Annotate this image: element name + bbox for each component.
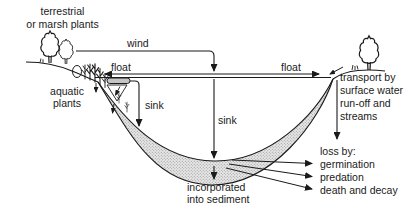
label-float-right: float <box>281 61 301 73</box>
label-incorporated: incorporated into sediment <box>187 182 249 205</box>
label-loss-predation: predation <box>320 171 364 183</box>
label-transport: transport by surface water run-off and s… <box>340 71 418 123</box>
tree-icon <box>41 31 59 63</box>
label-loss-death-decay: death and decay <box>320 184 398 196</box>
floating-seeds-icon <box>107 78 130 84</box>
label-aquatic-plants: aquatic plants <box>42 86 92 109</box>
label-sink-left: sink <box>145 99 164 111</box>
sediment-top-curve <box>98 79 333 161</box>
label-float-left: float <box>111 61 131 73</box>
lake-seed-dispersal-diagram: terrestrial or marsh plants wind float a… <box>0 0 419 210</box>
sediment-band <box>98 79 333 185</box>
label-terrestrial-plants: terrestrial or marsh plants <box>5 5 120 30</box>
label-sink-center: sink <box>218 114 237 126</box>
label-wind: wind <box>127 37 149 49</box>
tree-icon <box>359 36 379 70</box>
label-loss-by: loss by: <box>320 145 356 157</box>
label-loss-germination: germination <box>320 158 375 170</box>
wind-arrow <box>76 51 214 71</box>
tree-icon <box>59 39 73 64</box>
sink-bracket-arrow <box>130 81 139 126</box>
